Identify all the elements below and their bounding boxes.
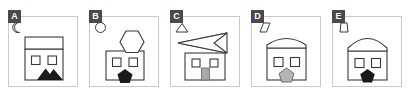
house-window (372, 59, 381, 68)
house-window (129, 58, 138, 67)
panel-drawing-c (170, 16, 240, 87)
panel-label-badge-c: C (170, 10, 183, 23)
house-window (291, 58, 300, 67)
panel-drawing-b (89, 16, 159, 87)
house-window (32, 56, 41, 65)
panel-drawing-e (332, 16, 402, 87)
panel-strip: A (0, 0, 414, 98)
panel-a[interactable]: A (5, 10, 81, 90)
crescent-moon-icon (13, 22, 20, 32)
gray-door-shape (202, 68, 210, 80)
triangle-icon (176, 24, 188, 33)
panel-label-badge-e: E (332, 10, 345, 23)
panel-b[interactable]: B (86, 10, 162, 90)
parallelogram-icon (260, 23, 270, 32)
house-roof-dome (348, 39, 387, 52)
panel-drawing-d (251, 16, 321, 87)
house-roof-dome (267, 39, 306, 49)
panel-label-badge-d: D (251, 10, 264, 23)
house-window (210, 59, 218, 67)
circle-icon (96, 23, 106, 33)
panel-label-badge-b: B (89, 10, 102, 23)
house-window (48, 56, 57, 65)
trapezoid-icon (340, 23, 348, 32)
house-roof-hexagon (120, 31, 144, 53)
panel-c[interactable]: C (167, 10, 243, 90)
panel-d[interactable]: D (248, 10, 324, 90)
house-roof (25, 37, 63, 49)
panel-drawing-a (8, 16, 78, 87)
house-window (192, 59, 200, 67)
house-window (274, 58, 283, 67)
panel-e[interactable]: E (329, 10, 405, 90)
house-window (113, 58, 122, 67)
panel-label-badge-a: A (8, 10, 21, 23)
house-window (355, 59, 364, 68)
